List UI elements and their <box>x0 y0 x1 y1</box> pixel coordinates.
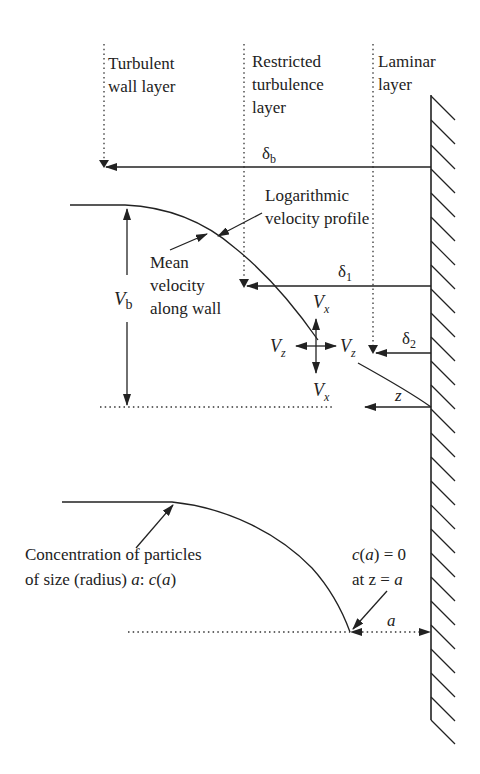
label-laminar-2: layer <box>378 75 412 94</box>
log-profile-label-1: Logarithmic <box>265 186 349 205</box>
wall-hatching <box>431 96 455 744</box>
radius-arrowhead-left <box>350 628 362 636</box>
delta-b-label: δb <box>262 144 276 166</box>
vx-top-label: Vx <box>313 292 330 316</box>
label-restricted-1: Restricted <box>252 52 321 71</box>
boundary-condition-pointer <box>353 591 387 629</box>
label-restricted-3: layer <box>252 98 286 117</box>
label-restricted-2: turbulence <box>252 75 324 94</box>
wall <box>431 95 455 744</box>
concentration-curve <box>62 502 350 632</box>
boundary-condition-label-2: at z = a <box>352 570 403 589</box>
radius-label: a <box>387 611 396 630</box>
delta-2-label: δ2 <box>402 329 416 351</box>
log-profile-label-2: velocity profile <box>265 209 369 228</box>
mean-velocity-label-1: Mean <box>150 253 189 272</box>
concentration-label-1: Concentration of particles <box>25 545 202 564</box>
vz-left-label: Vz <box>270 336 286 360</box>
label-turbulent-1: Turbulent <box>108 54 175 73</box>
mean-velocity-label-2: velocity <box>150 276 205 295</box>
mean-velocity-pointer <box>170 234 207 250</box>
boundary-condition-label-1: c(a) = 0 <box>352 545 406 564</box>
vx-bottom-label: Vx <box>313 380 330 404</box>
vb-label: Vb <box>114 288 133 312</box>
concentration-label-2: of size (radius) a: c(a) <box>25 570 176 589</box>
concentration-pointer <box>136 505 173 548</box>
velocity-components-cross <box>296 319 336 373</box>
label-turbulent-2: wall layer <box>108 77 176 96</box>
mean-velocity-label-3: along wall <box>150 299 222 318</box>
delta-1-label: δ1 <box>338 262 352 284</box>
vz-right-label: Vz <box>340 336 356 360</box>
label-laminar-1: Laminar <box>378 52 436 71</box>
radius-arrowhead-right <box>419 628 431 636</box>
z-label: z <box>394 386 402 405</box>
log-profile-pointer <box>218 213 262 236</box>
boundary-layer-diagram: Turbulent wall layer Restricted turbulen… <box>0 0 480 774</box>
